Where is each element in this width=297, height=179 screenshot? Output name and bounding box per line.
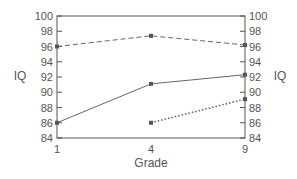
- y-tick-label-right: 92: [249, 71, 261, 83]
- y-tick-label-left: 92: [41, 71, 53, 83]
- data-point-marker: [243, 97, 247, 101]
- iq-line-chart: 8486889092949698100 8486889092949698100 …: [0, 0, 297, 179]
- y-axis-label-right: IQ: [274, 69, 287, 83]
- y-tick-label-left: 86: [41, 117, 53, 129]
- x-tick-label: 9: [242, 143, 248, 155]
- y-tick-label-right: 96: [249, 41, 261, 53]
- data-point-marker: [149, 121, 153, 125]
- y-tick-label-right: 86: [249, 117, 261, 129]
- y-tick-label-left: 84: [41, 132, 53, 144]
- y-tick-label-left: 90: [41, 86, 53, 98]
- data-point-marker: [243, 43, 247, 47]
- y-axis-label-left: IQ: [14, 69, 27, 83]
- data-point-marker: [149, 34, 153, 38]
- y-tick-label-right: 94: [249, 56, 261, 68]
- y-tick-label-left: 100: [35, 10, 53, 22]
- y-tick-label-right: 88: [249, 102, 261, 114]
- y-tick-label-right: 100: [249, 10, 267, 22]
- y-tick-label-left: 94: [41, 56, 53, 68]
- x-axis: 149: [54, 143, 248, 155]
- y-tick-label-left: 96: [41, 41, 53, 53]
- y-tick-label-right: 98: [249, 25, 261, 37]
- data-point-marker: [55, 121, 59, 125]
- y-tick-label-right: 84: [249, 132, 261, 144]
- right-y-axis: 8486889092949698100: [240, 10, 267, 144]
- x-tick-label: 1: [54, 143, 60, 155]
- y-tick-label-left: 98: [41, 25, 53, 37]
- data-point-marker: [149, 82, 153, 86]
- data-series: [55, 34, 247, 125]
- data-point-marker: [55, 45, 59, 49]
- y-tick-label-right: 90: [249, 86, 261, 98]
- y-tick-label-left: 88: [41, 102, 53, 114]
- x-axis-label: Grade: [134, 156, 168, 170]
- dotted-series-line: [151, 99, 245, 123]
- data-point-marker: [243, 73, 247, 77]
- x-tick-label: 4: [148, 143, 154, 155]
